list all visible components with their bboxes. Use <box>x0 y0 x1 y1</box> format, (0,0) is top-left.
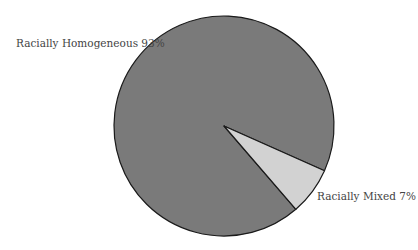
label-racially-homogeneous: Racially Homogeneous 93% <box>16 37 165 49</box>
label-racially-mixed: Racially Mixed 7% <box>317 190 416 202</box>
pie-chart: Racially Homogeneous 93% Racially Mixed … <box>0 0 418 250</box>
pie-slices <box>114 16 334 236</box>
